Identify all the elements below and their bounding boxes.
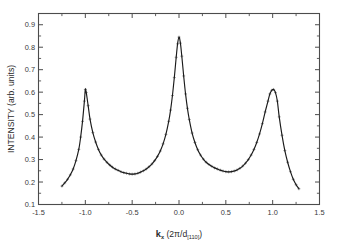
x-title-units-subscript: [110] — [187, 234, 199, 240]
x-tick-label: -1.5 — [32, 208, 45, 217]
x-axis-minor-ticks — [62, 14, 296, 205]
y-tick-label: 0.4 — [25, 133, 35, 142]
x-axis-title: kx (2π/d[110]) — [156, 229, 202, 240]
intensity-line-chart: -1.5-1.0-0.50.00.51.01.5 0.10.20.30.40.5… — [0, 0, 339, 248]
y-axis-tick-labels: 0.10.20.30.40.50.60.70.80.9 — [25, 20, 35, 209]
x-title-units-close: ) — [199, 229, 202, 239]
y-tick-label: 0.8 — [25, 43, 35, 52]
x-tick-label: 1.0 — [268, 208, 278, 217]
x-tick-label: -1.0 — [79, 208, 92, 217]
y-tick-label: 0.6 — [25, 88, 35, 97]
y-axis-major-ticks — [39, 25, 320, 205]
y-axis-title: INTENSITY (arb. units) — [6, 65, 16, 153]
intensity-curve — [62, 37, 299, 189]
figure-container: -1.5-1.0-0.50.00.51.01.5 0.10.20.30.40.5… — [0, 0, 339, 248]
x-tick-label: -0.5 — [126, 208, 139, 217]
x-tick-label: 0.0 — [174, 208, 184, 217]
x-tick-label: 0.5 — [221, 208, 231, 217]
y-tick-label: 0.2 — [25, 178, 35, 187]
y-tick-label: 0.3 — [25, 155, 35, 164]
y-tick-label: 0.5 — [25, 110, 35, 119]
plot-frame — [39, 14, 320, 205]
y-tick-label: 0.7 — [25, 65, 35, 74]
y-tick-label: 0.1 — [25, 200, 35, 209]
x-axis-tick-labels: -1.5-1.0-0.50.00.51.01.5 — [32, 208, 325, 217]
x-tick-label: 1.5 — [314, 208, 324, 217]
x-axis-major-ticks — [39, 14, 320, 205]
y-tick-label: 0.9 — [25, 20, 35, 29]
y-axis-minor-ticks — [39, 36, 320, 193]
x-title-units: (2π/d — [164, 229, 187, 239]
